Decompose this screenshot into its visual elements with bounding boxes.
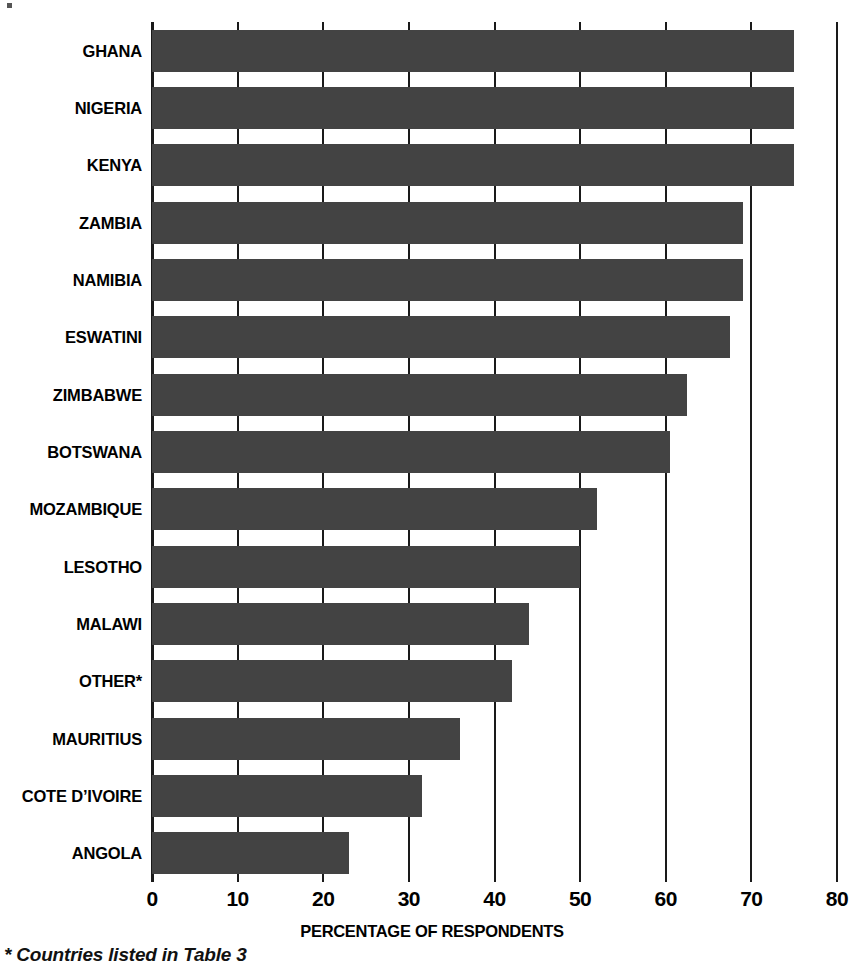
bar-zimbabwe [152,374,687,416]
category-label: GHANA [0,43,142,60]
footnote: * Countries listed in Table 3 [4,944,247,966]
x-tick-label-30: 30 [398,888,420,909]
category-label: ESWATINI [0,329,142,346]
bar-row [152,767,837,824]
bar-lesotho [152,546,580,588]
bar-row [152,825,837,882]
category-label: MAURITIUS [0,731,142,748]
x-tick-label-40: 40 [483,888,505,909]
category-label: LESOTHO [0,559,142,576]
category-label: COTE D’IVOIRE [0,788,142,805]
page-artifact-speck [7,3,12,8]
x-tick-label-60: 60 [655,888,677,909]
bar-namibia [152,259,743,301]
category-label: KENYA [0,157,142,174]
category-label: ZIMBABWE [0,387,142,404]
category-label: ZAMBIA [0,215,142,232]
x-axis-title: PERCENTAGE OF RESPONDENTS [0,922,864,941]
x-tick-label-20: 20 [312,888,334,909]
bar-ghana [152,30,794,72]
bars [152,22,837,882]
bar-row [152,137,837,194]
bar-row [152,481,837,538]
bar-row [152,653,837,710]
x-tick-label-10: 10 [226,888,248,909]
bar-row [152,595,837,652]
bar-row [152,79,837,136]
bar-mauritius [152,718,460,760]
category-axis-labels: GHANANIGERIAKENYAZAMBIANAMIBIAESWATINIZI… [0,22,142,882]
bar-eswatini [152,316,730,358]
bar-row [152,538,837,595]
category-label: BOTSWANA [0,444,142,461]
x-tick-label-80: 80 [826,888,848,909]
bar-kenya [152,144,794,186]
category-label: MALAWI [0,616,142,633]
bar-other [152,660,512,702]
bar-cote-d-ivoire [152,775,422,817]
bar-chart: GHANANIGERIAKENYAZAMBIANAMIBIAESWATINIZI… [0,0,864,973]
category-label: NIGERIA [0,100,142,117]
x-axis-tick-labels: 01020304050607080 [152,888,837,918]
category-label: NAMIBIA [0,272,142,289]
category-label: OTHER* [0,673,142,690]
bar-row [152,194,837,251]
bar-angola [152,832,349,874]
category-label: MOZAMBIQUE [0,501,142,518]
bar-zambia [152,202,743,244]
plot-area [152,22,837,882]
x-tick-label-70: 70 [740,888,762,909]
bar-nigeria [152,87,794,129]
bar-row [152,309,837,366]
x-tick-label-50: 50 [569,888,591,909]
bar-row [152,366,837,423]
category-label: ANGOLA [0,845,142,862]
bar-row [152,423,837,480]
bar-botswana [152,431,670,473]
bar-row [152,251,837,308]
bar-row [152,22,837,79]
bar-mozambique [152,488,597,530]
bar-row [152,710,837,767]
bar-malawi [152,603,529,645]
x-tick-label-0: 0 [146,888,157,909]
